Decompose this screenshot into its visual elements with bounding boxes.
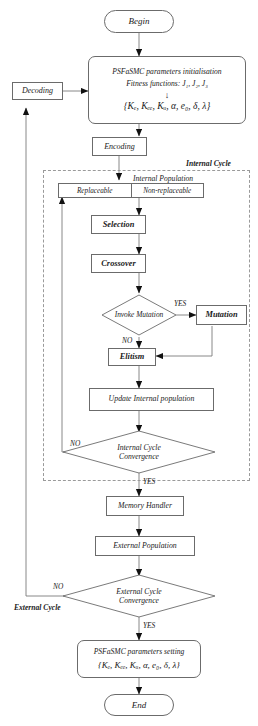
node-parameters-initialisation[interactable]: PSFaSMC parameters initialisation Fitnes…	[88, 56, 246, 124]
external-convergence-text: External Cycle Convergence	[99, 584, 179, 609]
label-yes-external: YES	[143, 622, 155, 629]
cell-non-replaceable[interactable]: Non-replaceable	[131, 184, 204, 197]
node-memory-handler[interactable]: Memory Handler	[106, 496, 184, 516]
node-external-population[interactable]: External Population	[95, 536, 195, 556]
label-internal-population: Internal Population	[133, 175, 193, 183]
node-elitism-label: Elitism	[120, 352, 145, 362]
node-crossover-label: Crossover	[101, 259, 135, 269]
label-no-mutation: NO	[122, 337, 132, 344]
setting-line-2: {Kₑ, Kₑₑ, Kᵤ, α, e₀, δ, λ}	[98, 660, 180, 670]
internal-population-row: Replaceable Non-replaceable	[58, 183, 204, 198]
label-no-internal: NO	[70, 440, 80, 447]
node-end-label: End	[132, 700, 147, 710]
node-encoding[interactable]: Encoding	[92, 137, 147, 156]
node-selection[interactable]: Selection	[91, 215, 146, 234]
node-memory-label: Memory Handler	[118, 502, 172, 511]
init-line-3: {Kₑ, Kₑₑ, Kᵤ, α, e₀, δ, λ}	[124, 101, 210, 112]
node-end[interactable]: End	[104, 694, 174, 716]
node-begin-label: Begin	[129, 16, 150, 26]
node-begin[interactable]: Begin	[104, 10, 174, 33]
label-external-cycle: External Cycle	[14, 604, 61, 612]
node-mutation-label: Mutation	[205, 310, 237, 320]
internal-convergence-text: Internal Cycle Convergence	[99, 440, 179, 465]
node-decoding[interactable]: Decoding	[12, 82, 63, 100]
init-line-2: Fitness functions: J₁, J₂, J₃	[126, 80, 208, 89]
node-encoding-label: Encoding	[104, 142, 135, 151]
invoke-mutation-text: Invoke Mutation	[103, 308, 175, 322]
init-down-arrow: ↓	[165, 90, 170, 100]
label-yes-internal: YES	[143, 478, 155, 485]
node-elitism[interactable]: Elitism	[108, 348, 156, 366]
label-no-external: NO	[53, 583, 63, 590]
node-crossover[interactable]: Crossover	[91, 254, 146, 273]
node-mutation[interactable]: Mutation	[196, 305, 247, 325]
internal-cycle-boundary	[43, 170, 250, 481]
node-decoding-label: Decoding	[22, 86, 53, 95]
node-update-label: Update Internal population	[109, 395, 195, 404]
label-yes-mutation: YES	[174, 300, 186, 307]
node-external-population-label: External Population	[113, 542, 176, 551]
setting-line-1: PSFaSMC parameters setting	[94, 648, 185, 657]
node-selection-label: Selection	[103, 220, 135, 230]
node-update-internal-population[interactable]: Update Internal population	[89, 388, 214, 411]
cell-replaceable[interactable]: Replaceable	[59, 184, 131, 197]
init-line-1: PSFaSMC parameters initialisation	[112, 68, 221, 77]
flowchart-canvas: Begin PSFaSMC parameters initialisation …	[0, 0, 258, 726]
node-parameters-setting[interactable]: PSFaSMC parameters setting {Kₑ, Kₑₑ, Kᵤ,…	[77, 640, 201, 678]
label-internal-cycle: Internal Cycle	[186, 160, 231, 168]
